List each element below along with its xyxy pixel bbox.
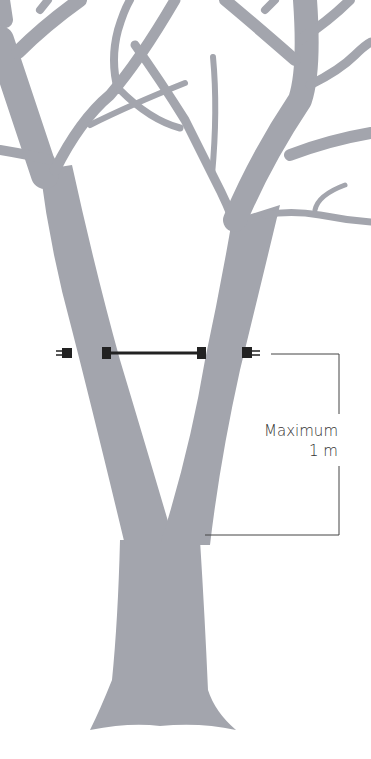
label-line-maximum: Maximum	[264, 421, 338, 441]
trunk-base	[90, 540, 236, 730]
right-stem	[160, 205, 280, 545]
label-line-distance: 1 m	[264, 441, 338, 461]
max-height-label: Maximum 1 m	[264, 421, 338, 461]
tree-illustration	[0, 0, 371, 759]
